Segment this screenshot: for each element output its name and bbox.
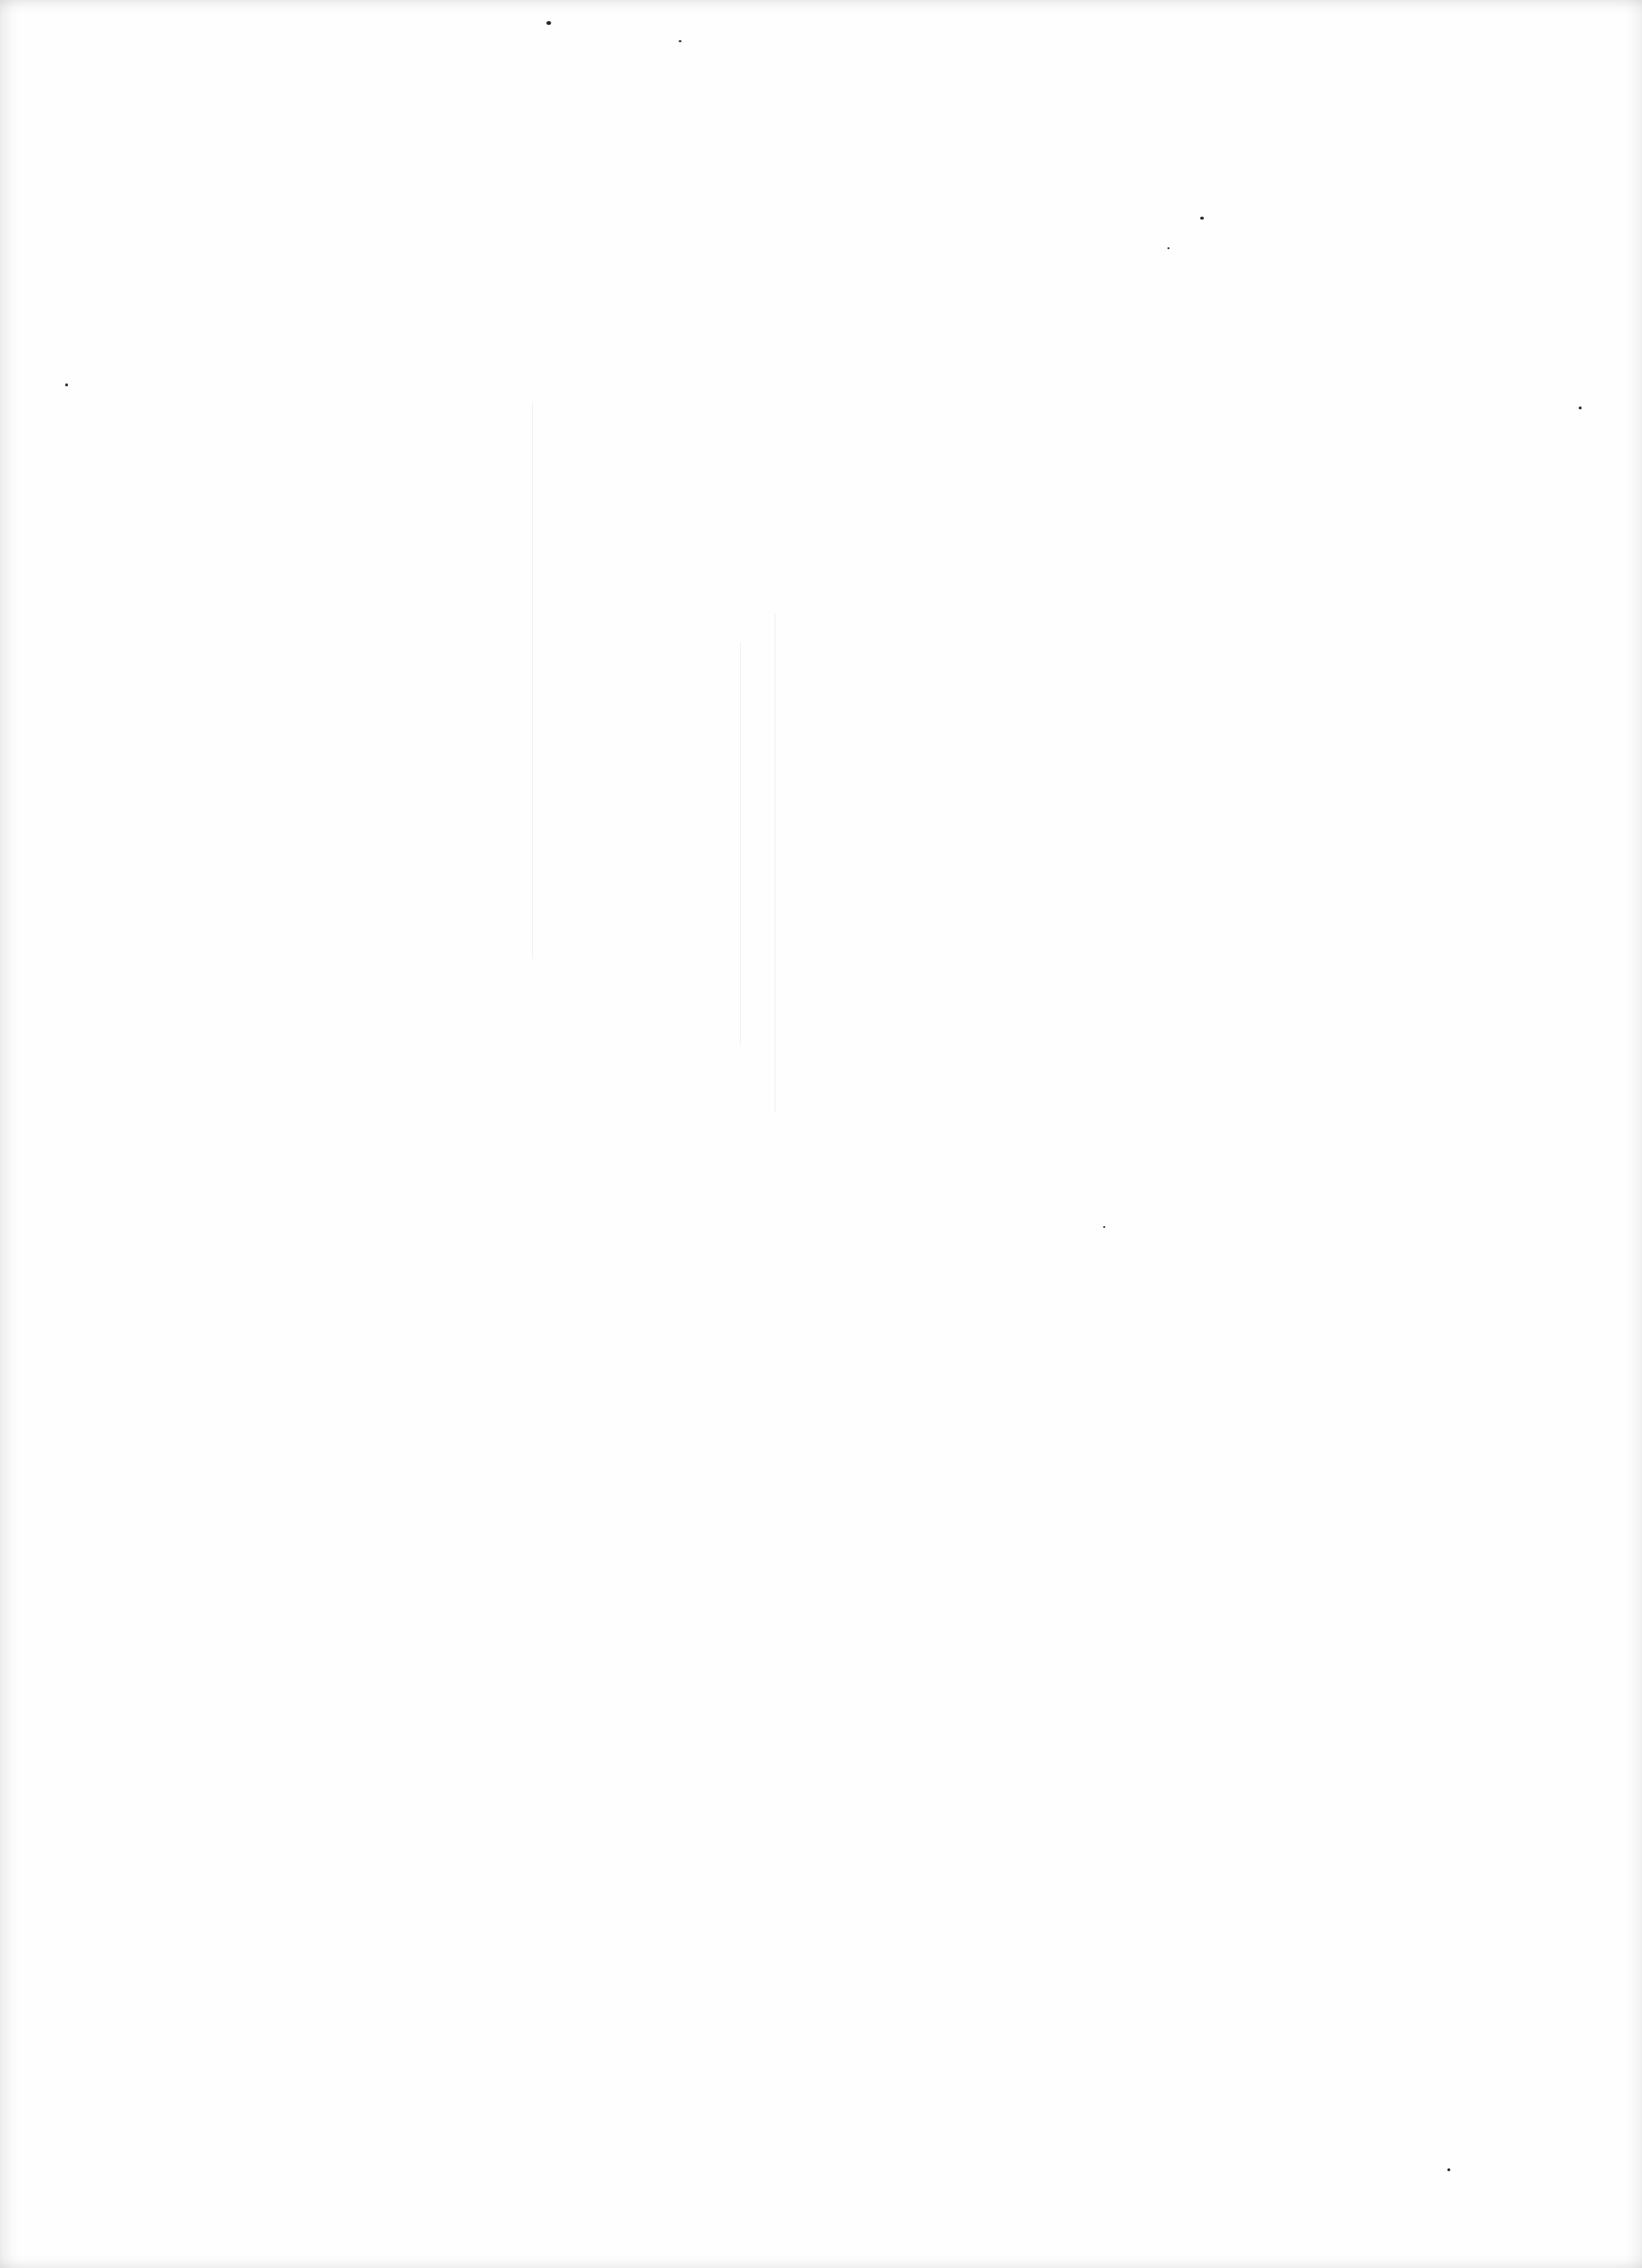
scan-speck xyxy=(65,383,68,386)
scan-speck xyxy=(1579,406,1582,409)
blank-document-page xyxy=(0,0,1642,2268)
scan-artifact-line xyxy=(740,642,741,1045)
scan-speck xyxy=(1447,2168,1450,2171)
scan-artifact-line xyxy=(532,403,533,959)
scan-speck xyxy=(546,21,551,25)
scan-speck xyxy=(1103,1226,1105,1228)
scan-speck xyxy=(1168,247,1169,249)
scan-speck xyxy=(1200,217,1204,220)
scan-speck xyxy=(679,40,682,42)
